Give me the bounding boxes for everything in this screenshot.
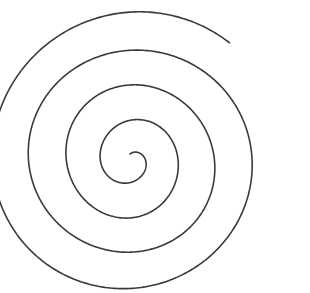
image-canvas: [0, 0, 310, 293]
spiral-figure: [0, 0, 310, 293]
